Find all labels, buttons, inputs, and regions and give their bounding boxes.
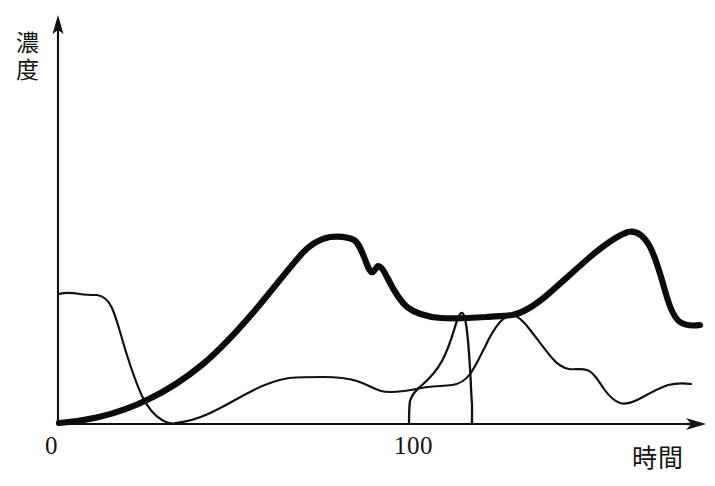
series-thick-dominant-curve (59, 232, 700, 423)
series-declining-left-curve (59, 293, 177, 424)
x-axis-tick-label-100: 100 (394, 432, 433, 460)
series-broad-low-hump-curve (175, 315, 691, 423)
y-axis-label: 濃 度 (12, 30, 42, 84)
chart-plot-area (0, 0, 715, 486)
x-axis-tick-label-0: 0 (45, 432, 58, 460)
x-axis-label: 時間 (632, 438, 684, 474)
chart-container: 0 100 時間 濃 度 (0, 0, 715, 486)
series-sharp-spike-curve (409, 313, 472, 424)
